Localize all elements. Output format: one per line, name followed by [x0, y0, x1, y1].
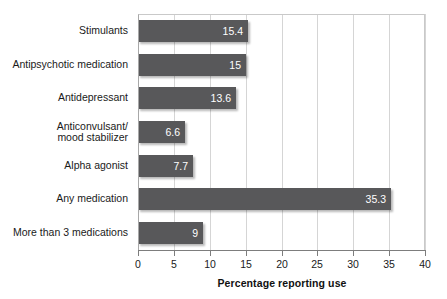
x-tick-label: 35: [374, 258, 404, 270]
bar-row: 7.7: [138, 155, 193, 177]
bar-row: 35.3: [138, 188, 391, 210]
x-tick: [210, 251, 211, 256]
category-axis: StimulantsAntipsychotic medicationAntide…: [0, 14, 133, 250]
plot-area: 15.41513.66.67.735.39: [138, 14, 425, 250]
bar-row: 15: [138, 54, 246, 76]
gridline: [425, 14, 426, 250]
bar-row: 6.6: [138, 121, 185, 143]
bar-value-label: 35.3: [138, 188, 391, 210]
x-axis-title: Percentage reporting use: [138, 277, 426, 289]
bar-value-label: 6.6: [138, 121, 185, 143]
gridline: [389, 14, 390, 250]
x-tick-label: 20: [267, 258, 297, 270]
gridline: [353, 14, 354, 250]
gridline: [210, 14, 211, 250]
x-tick: [389, 251, 390, 256]
x-tick: [353, 251, 354, 256]
bar-row: 13.6: [138, 87, 236, 109]
bar-row: 15.4: [138, 20, 248, 42]
x-tick-label: 10: [195, 258, 225, 270]
category-label: Any medication: [56, 193, 128, 205]
bar-value-label: 7.7: [138, 155, 193, 177]
x-tick-label: 15: [231, 258, 261, 270]
gridline: [282, 14, 283, 250]
x-tick-label: 0: [123, 258, 153, 270]
x-tick-label: 40: [410, 258, 440, 270]
x-tick: [425, 251, 426, 256]
gridline: [317, 14, 318, 250]
category-label: Antipsychotic medication: [12, 59, 128, 71]
x-tick: [282, 251, 283, 256]
gridline: [246, 14, 247, 250]
x-tick: [317, 251, 318, 256]
category-label: Alpha agonist: [64, 160, 128, 172]
bar-value-label: 9: [138, 222, 203, 244]
category-label: Anticonvulsant/ mood stabilizer: [57, 121, 128, 144]
x-tick: [138, 251, 139, 256]
bar-row: 9: [138, 222, 203, 244]
bar-value-label: 15.4: [138, 20, 248, 42]
bar-value-label: 13.6: [138, 87, 236, 109]
category-label: Antidepressant: [58, 92, 128, 104]
bar-value-label: 15: [138, 54, 246, 76]
x-tick-label: 25: [302, 258, 332, 270]
x-tick: [246, 251, 247, 256]
bar-chart-figure: StimulantsAntipsychotic medicationAntide…: [0, 0, 447, 299]
category-label: Stimulants: [79, 25, 128, 37]
x-tick: [174, 251, 175, 256]
x-tick-label: 5: [159, 258, 189, 270]
category-label: More than 3 medications: [13, 227, 128, 239]
x-tick-label: 30: [338, 258, 368, 270]
